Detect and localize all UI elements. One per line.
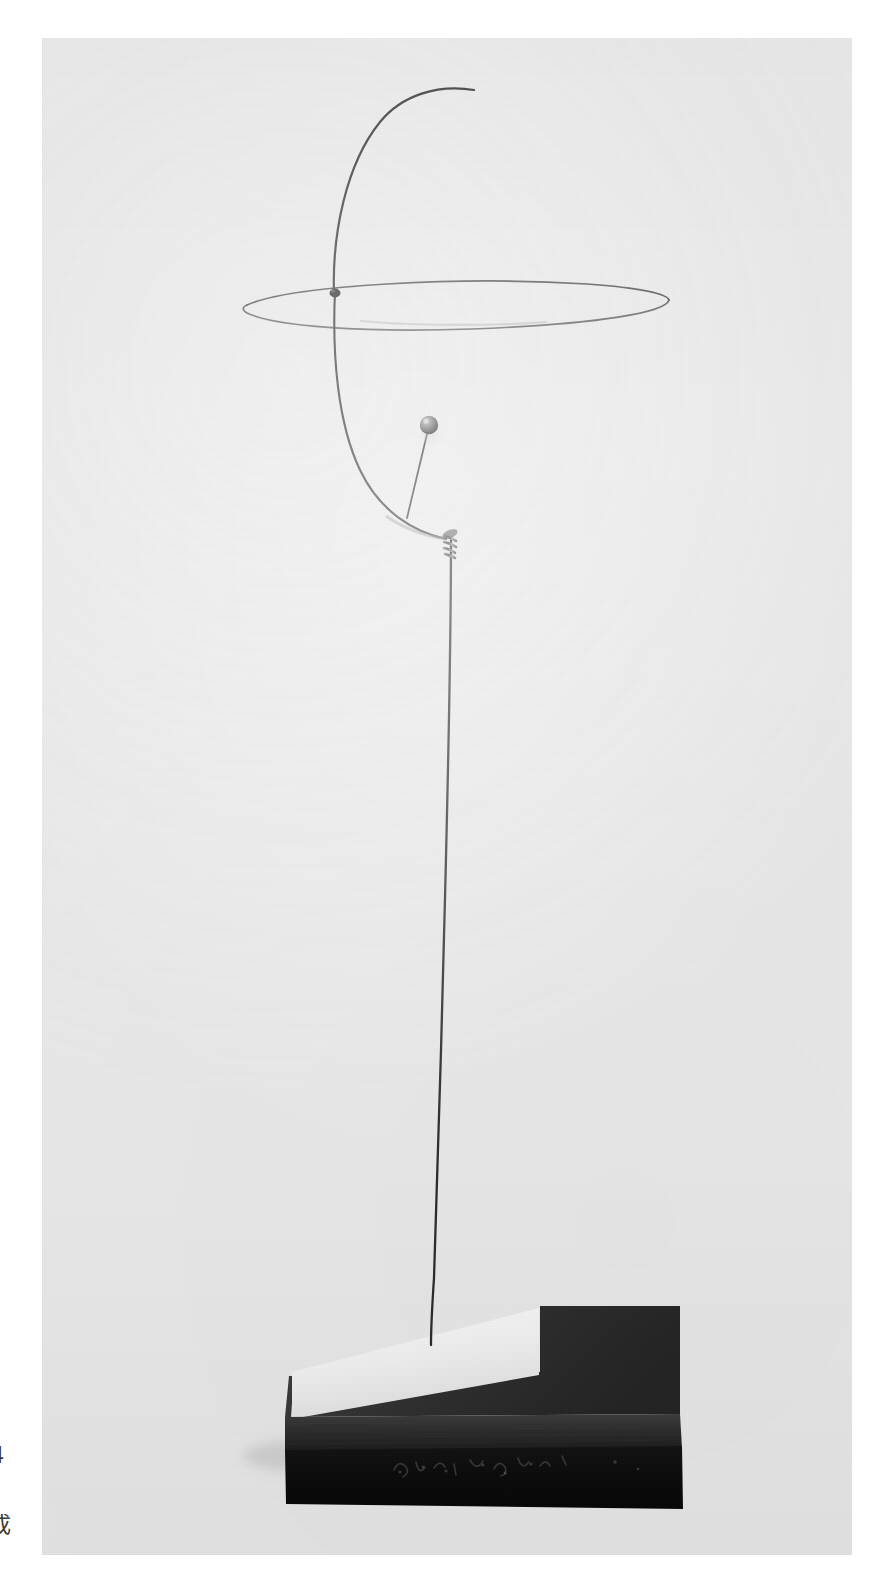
photograph bbox=[42, 38, 852, 1555]
upper-arc bbox=[334, 88, 474, 294]
circle-ring-far bbox=[247, 281, 669, 305]
sculpture-artwork bbox=[42, 38, 852, 1555]
margin-folio-number: 4 bbox=[0, 1442, 17, 1467]
plinth bbox=[242, 1306, 683, 1509]
wire-sculpture bbox=[243, 88, 669, 1345]
circle-ring-highlight bbox=[360, 321, 547, 325]
knot-joint bbox=[330, 289, 341, 298]
plinth-top-bevel bbox=[285, 1414, 682, 1452]
bead-stem bbox=[407, 430, 428, 518]
bead bbox=[420, 416, 440, 443]
margin-caption-glyph: 成 bbox=[0, 1514, 13, 1536]
plinth-front-face bbox=[285, 1446, 683, 1509]
page-sheet: 4 成 bbox=[0, 0, 883, 1587]
vertical-stem bbox=[431, 538, 451, 1345]
sculpture-drawing bbox=[42, 38, 852, 1555]
